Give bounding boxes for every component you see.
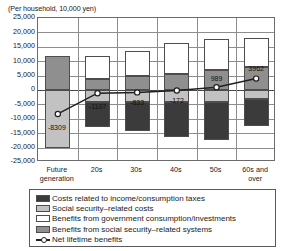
chart-legend: Costs related to income/consumption taxe… [29,189,276,247]
net-benefits-marker [254,76,259,81]
data-label: 989 [202,75,232,82]
legend-item-ssben[interactable]: Benefits from social security–related sy… [36,224,275,234]
legend-label: Net lifetime benefits [52,235,122,244]
y-tick-label: -5,000 [1,100,35,107]
data-label: -1107 [83,103,113,110]
net-benefits-marker [135,90,140,95]
y-tick-label: 5,000 [1,71,35,78]
data-label: -8309 [42,124,72,131]
plot-area: -8309-1107-833-1729893962 [37,17,275,161]
legend-item-tax[interactable]: Costs related to income/consumption taxe… [36,193,275,203]
legend-label: Social security–related costs [52,204,153,213]
legend-label: Costs related to income/consumption taxe… [52,194,205,203]
x-tick-label: 30s [116,165,156,174]
legend-label: Benefits from social security–related sy… [52,225,212,234]
x-tick-label: Future generation [37,165,77,183]
plot-frame: -8309-1107-833-1729893962 [37,17,275,161]
net-benefits-marker [174,88,179,93]
legend-swatch-govben-icon [36,215,50,222]
legend-swatch-sscost-icon [36,205,50,212]
y-tick-label: 15,000 [1,42,35,49]
x-tick-label: 50s [196,165,236,174]
y-tick-label: 20,000 [1,28,35,35]
net-benefits-marker [95,91,100,96]
data-label: 3962 [241,65,271,72]
net-benefits-marker [55,111,60,116]
y-tick-label: 25,000 [1,13,35,20]
y-tick-label: -20,000 [1,143,35,150]
data-label: -172 [162,97,192,104]
y-tick-label: -25,000 [1,157,35,164]
data-label: -833 [122,99,152,106]
x-tick-label: 40s [156,165,196,174]
legend-swatch-ssben-icon [36,226,50,233]
y-tick-label: -10,000 [1,114,35,121]
legend-item-line[interactable]: Net lifetime benefits [36,235,275,245]
legend-swatch-tax-icon [36,195,50,202]
net-benefits-line [38,18,275,161]
x-tick-label: 20s [77,165,117,174]
y-tick-label: 10,000 [1,57,35,64]
legend-item-govben[interactable]: Benefits from government consumption/inv… [36,214,275,224]
y-tick-label: 0 [1,85,35,92]
net-benefits-marker [214,85,219,90]
x-tick-label: 60s and over [235,165,275,183]
y-tick-label: -15,000 [1,129,35,136]
x-axis-tick-labels: Future generation20s30s40s50s60s and ove… [37,165,275,187]
chart-figure: (Per household, 10,000 yen) 25,00020,000… [0,0,283,251]
y-axis-tick-labels: 25,00020,00015,00010,0005,0000-5,000-10,… [0,17,35,161]
legend-swatch-line-icon [36,236,50,243]
legend-label: Benefits from government consumption/inv… [52,214,236,223]
legend-item-sscost[interactable]: Social security–related costs [36,203,275,213]
